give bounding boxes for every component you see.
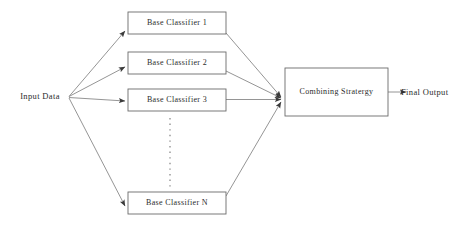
edge-input-to-classifier-3 xyxy=(69,98,125,102)
input-data-label: Input Data xyxy=(10,92,70,101)
combining-strategy-label: Combining Stratergy xyxy=(285,88,388,96)
edge-classifier-n-to-combiner xyxy=(226,102,281,196)
base-classifier-2-label: Base Classifier 2 xyxy=(128,59,226,67)
diagram-graphics xyxy=(0,0,472,229)
diagram-canvas: Input Data Base Classifier 1 Base Classi… xyxy=(0,0,472,229)
edge-input-to-classifier-2 xyxy=(69,67,125,97)
base-classifier-3-label: Base Classifier 3 xyxy=(128,96,226,104)
edge-input-to-classifier-n xyxy=(69,98,125,206)
edge-classifier-1-to-combiner xyxy=(226,33,281,97)
edge-input-to-classifier-1 xyxy=(69,31,125,97)
base-classifier-1-label: Base Classifier 1 xyxy=(128,19,226,27)
final-output-label: Final Output xyxy=(401,88,467,97)
base-classifier-n-label: Base Classifier N xyxy=(128,199,226,207)
edge-classifier-2-to-combiner xyxy=(226,71,281,98)
